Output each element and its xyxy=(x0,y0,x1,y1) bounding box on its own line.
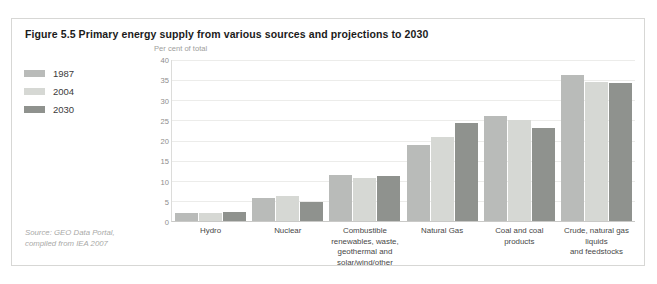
y-tick-label: 40 xyxy=(145,56,169,65)
legend-swatch-1987 xyxy=(24,70,45,77)
bar-2030 xyxy=(532,128,555,221)
x-axis-label-line: Nuclear xyxy=(251,226,324,237)
x-axis-label-line: Natural Gas xyxy=(406,226,479,237)
bar-group xyxy=(249,60,326,221)
y-tick-label: 35 xyxy=(145,76,169,85)
bar-1987 xyxy=(561,75,584,222)
chart-legend: 1987 2004 2030 xyxy=(24,66,134,120)
figure-container: Figure 5.5 Primary energy supply from va… xyxy=(11,18,645,266)
legend-swatch-2004 xyxy=(24,88,45,95)
x-axis-label: Combustible renewables, waste,geothermal… xyxy=(326,226,403,269)
y-tick-label: 5 xyxy=(145,197,169,206)
source-note: Source: GEO Data Portal, compiled from I… xyxy=(25,227,143,250)
x-axis-label: Natural Gas xyxy=(404,226,481,269)
plot-wrapper: 0510152025303540 xyxy=(143,60,635,222)
bar-2030 xyxy=(223,212,246,221)
legend-label-2030: 2030 xyxy=(53,105,74,115)
bar-group xyxy=(404,60,481,221)
source-line-1: Source: GEO Data Portal, xyxy=(25,227,143,238)
x-axis-label-line: Crude, natural gas liquids xyxy=(560,226,633,247)
x-axis-label-line: and feedstocks xyxy=(560,247,633,258)
legend-swatch-2030 xyxy=(24,106,45,113)
legend-label-1987: 1987 xyxy=(53,69,74,79)
x-axis-label-line: Hydro xyxy=(174,226,247,237)
x-axis-label: Coal and coal products xyxy=(481,226,558,269)
bar-group xyxy=(326,60,403,221)
page-title: Figure 5.5 Primary energy supply from va… xyxy=(25,28,428,40)
y-axis-title: Per cent of total xyxy=(154,44,207,53)
bar-2004 xyxy=(199,213,222,221)
y-tick-label: 20 xyxy=(145,137,169,146)
bar-group xyxy=(481,60,558,221)
x-axis-label: Crude, natural gas liquidsand feedstocks xyxy=(558,226,635,269)
bar-1987 xyxy=(484,116,507,221)
bar-2004 xyxy=(431,137,454,221)
bar-1987 xyxy=(407,145,430,221)
x-axis-label: Nuclear xyxy=(249,226,326,269)
y-tick-label: 25 xyxy=(145,116,169,125)
legend-item: 2030 xyxy=(24,102,134,117)
bar-2004 xyxy=(276,196,299,221)
bar-groups xyxy=(172,60,635,221)
bar-1987 xyxy=(175,213,198,221)
source-line-2: compiled from IEA 2007 xyxy=(25,238,143,249)
y-tick-label: 0 xyxy=(145,218,169,227)
x-axis-label-line: Combustible renewables, waste, xyxy=(328,226,401,247)
x-axis-label-line: Coal and coal products xyxy=(483,226,556,247)
chart: Per cent of total 0510152025303540 Hydro… xyxy=(143,44,635,256)
bar-2030 xyxy=(300,202,323,221)
legend-label-2004: 2004 xyxy=(53,87,74,97)
bar-2004 xyxy=(585,82,608,221)
x-axis-label-line: geothermal and solar/wind/other xyxy=(328,247,401,268)
bar-group xyxy=(558,60,635,221)
bar-2030 xyxy=(377,176,400,221)
y-tick-label: 15 xyxy=(145,157,169,166)
bar-group xyxy=(172,60,249,221)
x-axis-label: Hydro xyxy=(172,226,249,269)
y-tick-label: 30 xyxy=(145,96,169,105)
legend-item: 2004 xyxy=(24,84,134,99)
bar-2030 xyxy=(609,83,632,221)
legend-item: 1987 xyxy=(24,66,134,81)
bar-2004 xyxy=(508,120,531,221)
bar-1987 xyxy=(329,175,352,221)
bar-2030 xyxy=(455,123,478,221)
bar-1987 xyxy=(252,198,275,221)
bar-2004 xyxy=(353,178,376,221)
x-axis-labels: HydroNuclearCombustible renewables, wast… xyxy=(172,226,635,269)
y-tick-label: 10 xyxy=(145,177,169,186)
